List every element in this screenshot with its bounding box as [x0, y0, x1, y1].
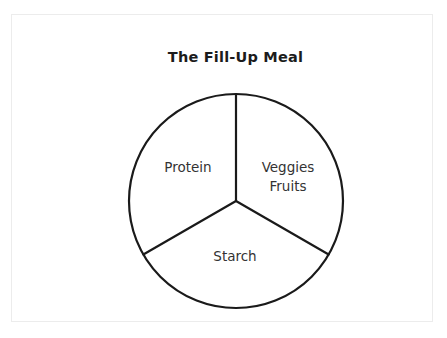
pie-chart [125, 90, 347, 312]
page-canvas: The Fill-Up Meal Protein Veggies Fruits … [0, 0, 447, 338]
pie-slice-label-protein-text: Protein [164, 159, 211, 175]
pie-slice-label-starch: Starch [192, 247, 278, 266]
pie-chart-svg [125, 90, 347, 312]
pie-slice-label-fruits-text: Fruits [245, 177, 331, 196]
pie-slice-label-veggies-text: Veggies [245, 158, 331, 177]
pie-slice-label-protein: Protein [145, 158, 231, 177]
chart-frame: The Fill-Up Meal Protein Veggies Fruits … [11, 14, 433, 322]
pie-slice-label-starch-text: Starch [213, 248, 256, 264]
page-title: The Fill-Up Meal [12, 49, 447, 65]
pie-slice-label-veggies-fruits: Veggies Fruits [245, 158, 331, 196]
